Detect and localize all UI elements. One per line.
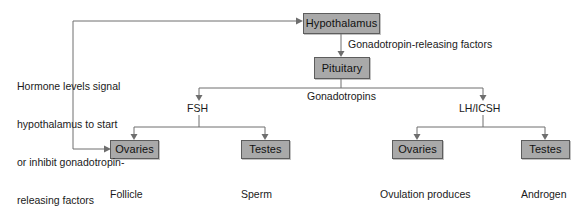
box-ovaries-right[interactable]: Ovaries bbox=[392, 140, 443, 159]
label-gonadotropins: Gonadotropins bbox=[307, 90, 376, 103]
caption-ovaries-left: Follicle matures and produces oestrogen bbox=[110, 163, 168, 217]
label-gonadotropin-releasing-factors: Gonadotropin-releasing factors bbox=[348, 38, 492, 51]
feedback-note: Hormone levels signal hypothalamus to st… bbox=[17, 55, 124, 217]
caption-ovaries-right-line-1: Ovulation produces bbox=[380, 188, 470, 201]
label-fsh: FSH bbox=[187, 102, 208, 115]
feedback-note-line-2: hypothalamus to start bbox=[17, 118, 124, 131]
diagram-canvas: Hypothalamus Pituitary Ovaries Testes Ov… bbox=[0, 0, 585, 217]
feedback-note-line-3: or inhibit gonadotropin- bbox=[17, 156, 124, 169]
caption-testes-right: Androgen production bbox=[521, 163, 570, 217]
arrowhead-to-hypothalamus bbox=[296, 18, 303, 25]
box-testes-right[interactable]: Testes bbox=[521, 140, 570, 159]
feedback-note-line-4: releasing factors bbox=[17, 194, 124, 207]
caption-testes-right-line-1: Androgen bbox=[521, 188, 570, 201]
caption-ovaries-left-line-1: Follicle bbox=[110, 188, 168, 201]
caption-testes-left: Sperm production bbox=[241, 163, 290, 217]
box-testes-left[interactable]: Testes bbox=[241, 140, 290, 159]
caption-testes-left-line-1: Sperm bbox=[241, 188, 290, 201]
label-lh-icsh: LH/ICSH bbox=[459, 102, 500, 115]
arrowhead-to-lh bbox=[480, 95, 487, 101]
box-pituitary[interactable]: Pituitary bbox=[314, 57, 370, 79]
box-hypothalamus[interactable]: Hypothalamus bbox=[303, 13, 380, 34]
feedback-note-line-1: Hormone levels signal bbox=[17, 80, 124, 93]
arrowhead-to-fsh bbox=[196, 95, 203, 101]
caption-ovaries-right: Ovulation produces progesterone and some… bbox=[380, 163, 470, 217]
